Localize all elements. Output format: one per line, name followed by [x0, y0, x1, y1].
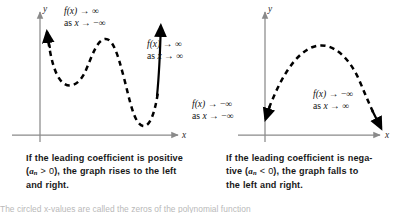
annotation-left-end-behavior-positive: f(x) → ∞ as x → −∞: [64, 5, 106, 28]
as-word: as: [192, 110, 200, 121]
coef-relation: > 0: [38, 166, 55, 176]
caption-text-part-3: and right.: [26, 180, 69, 190]
as-word: as: [64, 17, 72, 28]
arrow-glyph: →: [81, 17, 91, 28]
annotation-line-1: f(x) → −∞: [313, 88, 353, 100]
caption-text-part-1: If the leading coefficient is nega-: [226, 153, 372, 163]
annotation-line-2: as x → ∞: [147, 50, 183, 62]
fx-symbol: f(x): [192, 98, 205, 109]
limit-value: −∞: [341, 88, 353, 99]
limit-value: −∞: [93, 17, 105, 28]
annotation-line-2: as x → −∞: [192, 110, 234, 122]
y-axis-label: y: [268, 4, 272, 14]
caption-positive-leading-coefficient: If the leading coefficient is positive (…: [26, 152, 206, 192]
panel-negative-leading-coefficient: y x f(x) → −∞ as x → −∞ f(x) → −∞: [200, 0, 399, 213]
caption-text-part-1: If the leading coefficient is positive: [26, 153, 183, 163]
panel-positive-leading-coefficient: y x f(x) → ∞ as x → −∞ f(x) → ∞: [0, 0, 199, 213]
limit-value: ∞: [342, 100, 349, 111]
arrow-glyph: →: [163, 38, 173, 49]
leading-coefficient-test-figure: y x f(x) → ∞ as x → −∞ f(x) → ∞: [0, 0, 399, 213]
x-axis-label: x: [182, 130, 186, 140]
arrow-glyph: →: [209, 110, 219, 121]
curve-right-end-arrow-negative: [372, 110, 381, 128]
x-axis-label: x: [385, 130, 389, 140]
arrow-glyph: →: [330, 100, 340, 111]
x-symbol: x: [157, 50, 161, 61]
footer-partial-text: The circled x-values are called the zero…: [0, 204, 399, 213]
arrow-glyph: →: [164, 50, 174, 61]
annotation-line-1: f(x) → −∞: [192, 98, 234, 110]
fx-symbol: f(x): [147, 38, 160, 49]
annotation-right-end-behavior-negative: f(x) → −∞ as x → ∞: [313, 88, 353, 111]
annotation-right-end-behavior-positive: f(x) → ∞ as x → ∞: [147, 38, 183, 61]
annotation-line-2: as x → ∞: [313, 100, 353, 112]
caption-text-part-2: , the graph rises to the left: [57, 166, 176, 176]
coef-relation: < 0: [257, 166, 274, 176]
x-symbol: x: [74, 17, 78, 28]
as-word: as: [313, 100, 321, 111]
curve-left-end-arrow-negative: [266, 106, 270, 119]
arrow-glyph: →: [80, 5, 90, 16]
curve-dashed-positive: [47, 32, 158, 126]
limit-value: ∞: [176, 50, 183, 61]
limit-value: −∞: [220, 98, 232, 109]
fx-symbol: f(x): [313, 88, 326, 99]
graph-negative-leading-coefficient: [200, 0, 399, 148]
y-axis-label: y: [43, 4, 47, 14]
caption-text-part-3: the left and right.: [226, 180, 303, 190]
annotation-line-2: as x → −∞: [64, 17, 106, 29]
as-word: as: [147, 50, 155, 61]
caption-negative-leading-coefficient: If the leading coefficient is nega- tive…: [226, 152, 399, 192]
x-symbol: x: [202, 110, 206, 121]
caption-text-part-1b: tive: [226, 166, 245, 176]
arrow-glyph: →: [208, 98, 218, 109]
caption-text-part-2: , the graph falls to: [276, 166, 358, 176]
limit-value: ∞: [175, 38, 182, 49]
arrow-glyph: →: [329, 88, 339, 99]
limit-value: −∞: [221, 110, 233, 121]
fx-symbol: f(x): [64, 5, 77, 16]
x-symbol: x: [323, 100, 327, 111]
annotation-left-end-behavior-negative: f(x) → −∞ as x → −∞: [192, 98, 234, 121]
annotation-line-1: f(x) → ∞: [64, 5, 106, 17]
limit-value: ∞: [92, 5, 99, 16]
annotation-line-1: f(x) → ∞: [147, 38, 183, 50]
